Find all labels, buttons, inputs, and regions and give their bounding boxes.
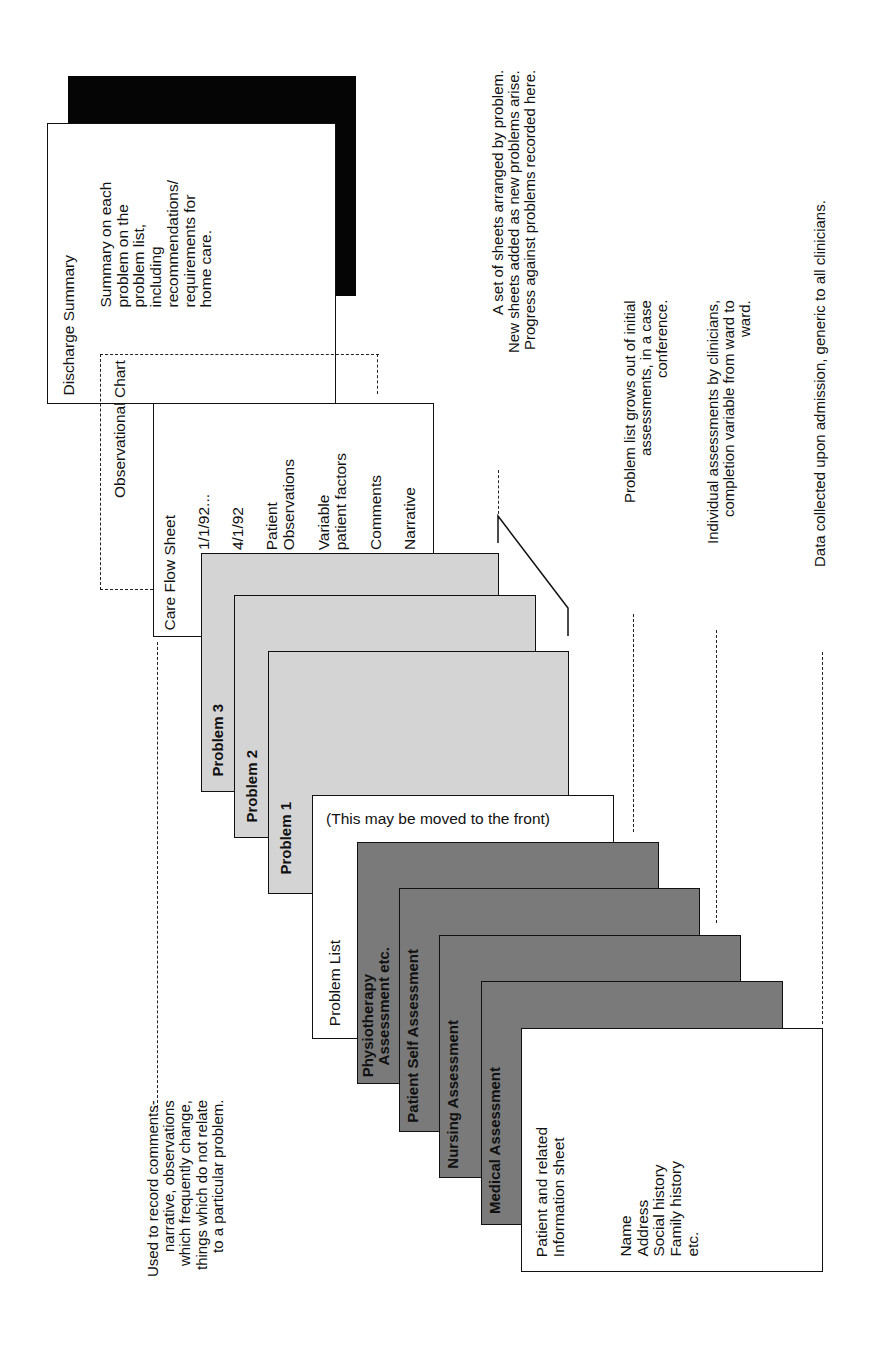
patient-info-annotation: Data collected upon admission, generic t… [812, 200, 828, 648]
assessments-leader-line [716, 630, 717, 923]
problems-leader-line [498, 470, 499, 514]
assessments-annotation: Individual assessments by clinicians, co… [705, 300, 754, 626]
problem-list-annotation: Problem list grows out of initial assess… [622, 300, 671, 610]
problems-annotation: A set of sheets arranged by problem. New… [490, 70, 539, 466]
problem-list-leader-line [633, 614, 634, 832]
care-flow-annotation: Used to record comments- narrative, obse… [145, 1100, 226, 1332]
problems-bracket [0, 0, 870, 1347]
patient-info-leader-line [822, 652, 823, 1024]
